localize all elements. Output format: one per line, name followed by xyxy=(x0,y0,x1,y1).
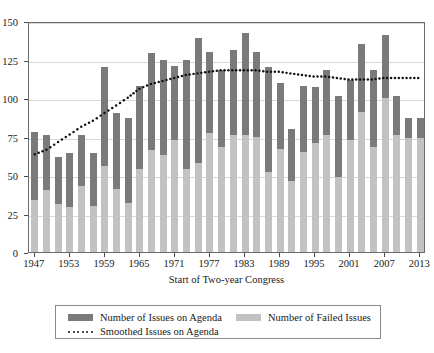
bar-segment-failed-issues xyxy=(288,181,295,252)
bar-column xyxy=(160,22,167,252)
x-tick-label-1983: 1983 xyxy=(234,258,255,269)
y-tick-mark-125 xyxy=(24,61,28,62)
x-tick-mark-1983 xyxy=(244,253,245,257)
y-tick-label-25: 25 xyxy=(8,209,19,220)
x-tick-label-2007: 2007 xyxy=(374,258,395,269)
bar-column xyxy=(218,22,225,252)
legend-swatch-light xyxy=(236,314,261,321)
bar-segment-failed-issues xyxy=(358,112,365,252)
bar-column xyxy=(265,22,272,252)
bar-column xyxy=(195,22,202,252)
bar-segment-failed-issues xyxy=(405,138,412,252)
legend-label-issues-on-agenda: Number of Issues on Agenda xyxy=(100,312,222,323)
legend-label-failed-issues: Number of Failed Issues xyxy=(268,312,371,323)
bar-column xyxy=(405,22,412,252)
bar-column xyxy=(125,22,132,252)
x-tick-label-1959: 1959 xyxy=(93,258,114,269)
bar-segment-failed-issues xyxy=(230,135,237,252)
bar-segment-failed-issues xyxy=(242,135,249,252)
bar-segment-failed-issues xyxy=(78,186,85,252)
y-axis: 0255075100125150 xyxy=(0,22,24,253)
bar-segment-failed-issues xyxy=(183,169,190,252)
bar-column xyxy=(113,22,120,252)
bar-segment-failed-issues xyxy=(55,204,62,252)
bar-column xyxy=(148,22,155,252)
bar-column xyxy=(370,22,377,252)
bar-column xyxy=(230,22,237,252)
x-tick-label-2013: 2013 xyxy=(409,258,430,269)
bar-segment-failed-issues xyxy=(393,135,400,252)
x-tick-label-1953: 1953 xyxy=(58,258,79,269)
x-tick-label-2001: 2001 xyxy=(339,258,360,269)
x-tick-mark-1971 xyxy=(174,253,175,257)
y-tick-label-100: 100 xyxy=(2,94,18,105)
x-tick-mark-1953 xyxy=(69,253,70,257)
x-tick-mark-1989 xyxy=(279,253,280,257)
bar-column xyxy=(358,22,365,252)
x-tick-label-1947: 1947 xyxy=(23,258,44,269)
bar-column xyxy=(101,22,108,252)
bar-segment-failed-issues xyxy=(347,140,354,252)
bar-column xyxy=(171,22,178,252)
bar-column xyxy=(393,22,400,252)
x-axis: 1947195319591965197119771983198919952001… xyxy=(28,258,425,274)
bar-column xyxy=(347,22,354,252)
bar-segment-failed-issues xyxy=(136,169,143,252)
bar-segment-failed-issues xyxy=(148,150,155,252)
bar-column xyxy=(206,22,213,252)
bar-column xyxy=(323,22,330,252)
bar-column xyxy=(417,22,424,252)
x-tick-label-1989: 1989 xyxy=(269,258,290,269)
bar-segment-failed-issues xyxy=(300,152,307,252)
x-tick-label-1965: 1965 xyxy=(128,258,149,269)
bar-segment-failed-issues xyxy=(206,133,213,252)
bar-segment-failed-issues xyxy=(277,149,284,252)
legend-item-smoothed-issues: Smoothed Issues on Agenda xyxy=(68,324,219,339)
bar-segment-failed-issues xyxy=(66,207,73,252)
bar-segment-failed-issues xyxy=(417,138,424,252)
bar-segment-failed-issues xyxy=(160,155,167,252)
bar-series-group xyxy=(29,23,424,252)
x-tick-mark-1977 xyxy=(209,253,210,257)
bar-column xyxy=(300,22,307,252)
bar-segment-failed-issues xyxy=(382,98,389,252)
x-tick-label-1995: 1995 xyxy=(304,258,325,269)
x-tick-mark-1947 xyxy=(34,253,35,257)
bar-column xyxy=(43,22,50,252)
bar-column xyxy=(382,22,389,252)
bar-column xyxy=(242,22,249,252)
legend-label-smoothed-issues: Smoothed Issues on Agenda xyxy=(100,326,219,337)
bar-segment-failed-issues xyxy=(195,163,202,252)
legend-dotted-line-marker xyxy=(68,328,93,335)
bar-segment-failed-issues xyxy=(335,177,342,252)
y-tick-mark-150 xyxy=(24,22,28,23)
bar-column xyxy=(55,22,62,252)
bar-segment-failed-issues xyxy=(43,190,50,252)
chart-legend: Number of Issues on Agenda Number of Fai… xyxy=(55,305,381,339)
x-axis-title: Start of Two-year Congress xyxy=(28,274,425,285)
bar-segment-failed-issues xyxy=(171,140,178,252)
y-tick-label-150: 150 xyxy=(2,17,18,28)
y-tick-mark-75 xyxy=(24,138,28,139)
y-tick-label-75: 75 xyxy=(8,132,19,143)
y-tick-label-50: 50 xyxy=(8,171,19,182)
x-tick-mark-2007 xyxy=(384,253,385,257)
bar-column xyxy=(335,22,342,252)
bar-segment-failed-issues xyxy=(253,137,260,253)
bar-column xyxy=(90,22,97,252)
bar-column xyxy=(277,22,284,252)
bar-segment-failed-issues xyxy=(323,135,330,252)
x-tick-mark-1995 xyxy=(314,253,315,257)
bar-column xyxy=(312,22,319,252)
bar-column xyxy=(183,22,190,252)
bar-segment-failed-issues xyxy=(265,172,272,252)
y-tick-label-125: 125 xyxy=(2,55,18,66)
legend-swatch-dark xyxy=(68,314,93,321)
legend-item-failed-issues: Number of Failed Issues xyxy=(236,310,371,325)
y-tick-mark-50 xyxy=(24,176,28,177)
bar-segment-failed-issues xyxy=(125,203,132,252)
x-tick-mark-1959 xyxy=(104,253,105,257)
legend-item-issues-on-agenda: Number of Issues on Agenda xyxy=(68,310,222,325)
bar-segment-failed-issues xyxy=(218,147,225,252)
bar-segment-failed-issues xyxy=(113,189,120,252)
